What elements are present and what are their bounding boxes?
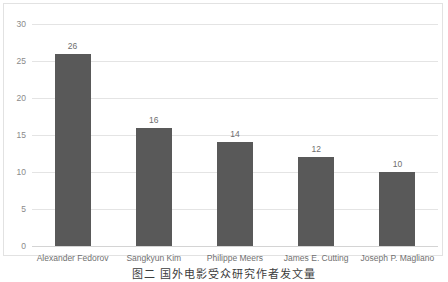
x-axis-category-label: James E. Cutting xyxy=(276,253,357,263)
x-axis-category-label: Alexander Fedorov xyxy=(32,253,113,263)
bar-value-label: 26 xyxy=(43,42,103,51)
bar[interactable] xyxy=(55,54,91,246)
y-axis-tick-label: 10 xyxy=(4,168,26,176)
gridline xyxy=(32,24,438,25)
y-axis-tick-label: 15 xyxy=(4,131,26,139)
chart-frame: 05101520253026Alexander Fedorov16Sangkyu… xyxy=(3,3,443,256)
bar-value-label: 16 xyxy=(124,116,184,125)
gridline xyxy=(32,98,438,99)
bar[interactable] xyxy=(136,128,172,246)
x-axis-category-label: Philippe Meers xyxy=(194,253,275,263)
y-axis-tick-label: 20 xyxy=(4,94,26,102)
x-axis-line xyxy=(32,246,438,247)
y-axis-tick-label: 25 xyxy=(4,57,26,65)
bar[interactable] xyxy=(298,157,334,246)
bar[interactable] xyxy=(217,142,253,246)
gridline xyxy=(32,61,438,62)
y-axis-tick-label: 30 xyxy=(4,20,26,28)
figure-caption: 图二 国外电影受众研究作者发文量 xyxy=(0,268,448,282)
x-axis-category-label: Joseph P. Magliano xyxy=(357,253,438,263)
chart-screenshot: 05101520253026Alexander Fedorov16Sangkyu… xyxy=(0,0,448,282)
plot-area: 05101520253026Alexander Fedorov16Sangkyu… xyxy=(4,4,444,257)
bar-value-label: 10 xyxy=(367,160,427,169)
x-axis-category-label: Sangkyun Kim xyxy=(113,253,194,263)
bar[interactable] xyxy=(379,172,415,246)
y-axis-tick-label: 0 xyxy=(4,242,26,250)
bar-value-label: 12 xyxy=(286,145,346,154)
bar-value-label: 14 xyxy=(205,130,265,139)
y-axis-tick-label: 5 xyxy=(4,205,26,213)
